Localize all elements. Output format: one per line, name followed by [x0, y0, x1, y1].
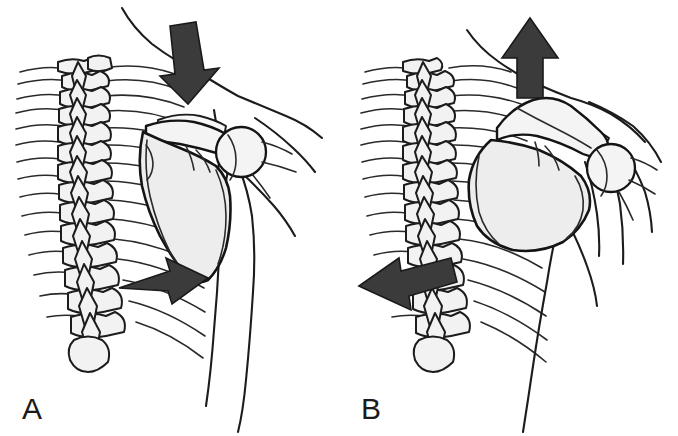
- shoulder-girdle-b: [469, 98, 657, 251]
- shoulder-depression-arrow: [160, 22, 219, 104]
- panel-b: B: [339, 0, 678, 436]
- shoulder-girdle-a: [140, 115, 296, 283]
- panel-b-illustration: [339, 0, 678, 436]
- panel-a-illustration: [0, 0, 339, 436]
- panel-a: A: [0, 0, 339, 436]
- figure-root: A: [0, 0, 678, 436]
- panel-label-a: A: [22, 394, 43, 424]
- vertebrae-b: [403, 58, 470, 372]
- panel-label-b: B: [361, 394, 382, 424]
- vertebrae-a: [58, 56, 125, 373]
